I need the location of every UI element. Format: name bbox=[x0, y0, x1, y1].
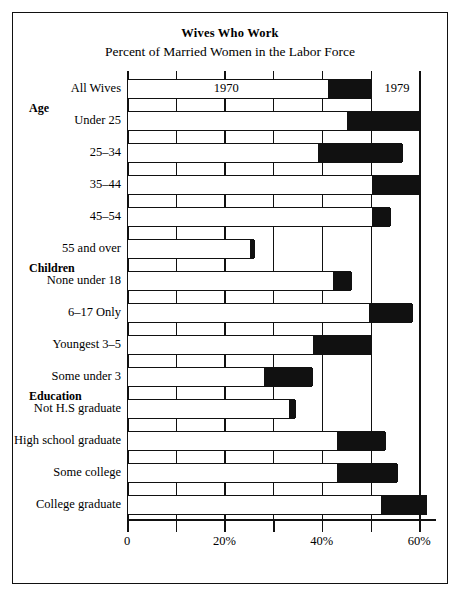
group-header-education: Education bbox=[29, 389, 82, 404]
bar-increment-1970-to-1979 bbox=[372, 208, 391, 226]
bar-1970 bbox=[128, 336, 313, 354]
x-tick-40 bbox=[322, 519, 324, 532]
gridline-50 bbox=[371, 71, 372, 519]
bar-increment-1970-to-1979 bbox=[337, 432, 386, 450]
bar-row[interactable] bbox=[127, 207, 435, 227]
bar-1979[interactable] bbox=[127, 271, 351, 291]
x-tick-30 bbox=[273, 519, 275, 532]
category-label: Youngest 3–5 bbox=[52, 337, 121, 352]
x-tick-20 bbox=[224, 519, 226, 532]
bar-1970 bbox=[128, 496, 381, 514]
category-label: College graduate bbox=[36, 497, 121, 512]
bar-increment-1970-to-1979 bbox=[369, 304, 413, 322]
category-label: All Wives bbox=[71, 81, 121, 96]
x-tick-50 bbox=[371, 519, 373, 532]
gridline-10 bbox=[176, 71, 177, 519]
x-tick-60 bbox=[419, 519, 421, 532]
category-label: 6–17 Only bbox=[68, 305, 121, 320]
gridline-20 bbox=[224, 71, 226, 519]
series-label-1970: 1970 bbox=[214, 81, 239, 96]
bar-increment-1970-to-1979 bbox=[289, 400, 296, 418]
bar-row[interactable] bbox=[127, 271, 435, 291]
category-label: Some college bbox=[53, 465, 121, 480]
bar-1970 bbox=[128, 272, 333, 290]
bar-1970 bbox=[128, 432, 337, 450]
bar-row[interactable] bbox=[127, 367, 435, 387]
bar-1979[interactable] bbox=[127, 335, 371, 355]
bar-row[interactable] bbox=[127, 463, 435, 483]
x-axis-line bbox=[127, 519, 436, 521]
bar-1970 bbox=[128, 304, 369, 322]
bar-1979[interactable] bbox=[127, 399, 295, 419]
bar-row[interactable] bbox=[127, 495, 435, 515]
bar-increment-1970-to-1979 bbox=[333, 272, 352, 290]
bar-row[interactable] bbox=[127, 143, 435, 163]
bar-1979[interactable] bbox=[127, 79, 371, 99]
bar-1979[interactable] bbox=[127, 463, 397, 483]
bar-row[interactable] bbox=[127, 239, 435, 259]
x-tick-label-0: 0 bbox=[124, 534, 130, 549]
bar-1979[interactable] bbox=[127, 175, 419, 195]
gridline-0 bbox=[127, 71, 129, 519]
category-label: 45–54 bbox=[90, 209, 121, 224]
bar-1970 bbox=[128, 400, 289, 418]
bar-increment-1970-to-1979 bbox=[337, 464, 398, 482]
bar-1970 bbox=[128, 176, 372, 194]
bar-increment-1970-to-1979 bbox=[313, 336, 371, 354]
x-tick-0 bbox=[127, 519, 129, 532]
category-label: High school graduate bbox=[14, 433, 121, 448]
bar-row[interactable] bbox=[127, 111, 435, 131]
bar-row[interactable] bbox=[127, 431, 435, 451]
bar-1979[interactable] bbox=[127, 143, 402, 163]
bar-row[interactable] bbox=[127, 335, 435, 355]
category-label: 35–44 bbox=[90, 177, 121, 192]
bar-1979[interactable] bbox=[127, 207, 390, 227]
category-label: 55 and over bbox=[62, 241, 121, 256]
group-header-children: Children bbox=[29, 261, 75, 276]
gridline-40 bbox=[322, 71, 324, 519]
x-tick-label-20: 20% bbox=[213, 534, 236, 549]
bar-1970 bbox=[128, 240, 250, 258]
chart-frame: Wives Who Work Percent of Married Women … bbox=[12, 12, 448, 584]
category-label: Under 25 bbox=[74, 113, 121, 128]
bar-increment-1970-to-1979 bbox=[347, 112, 420, 130]
x-tick-10 bbox=[176, 519, 178, 532]
bar-increment-1970-to-1979 bbox=[328, 80, 372, 98]
bar-1970 bbox=[128, 144, 318, 162]
series-label-1979: 1979 bbox=[385, 81, 410, 96]
bar-1979[interactable] bbox=[127, 495, 427, 515]
gridline-30 bbox=[273, 71, 274, 519]
gridline-60 bbox=[419, 71, 421, 519]
bar-row[interactable] bbox=[127, 399, 435, 419]
bar-1979[interactable] bbox=[127, 239, 254, 259]
bar-increment-1970-to-1979 bbox=[250, 240, 255, 258]
x-tick-label-40: 40% bbox=[310, 534, 333, 549]
bar-increment-1970-to-1979 bbox=[381, 496, 427, 514]
category-label: Some under 3 bbox=[52, 369, 121, 384]
bar-1970 bbox=[128, 368, 264, 386]
bar-1970 bbox=[128, 112, 347, 130]
bar-1979[interactable] bbox=[127, 111, 419, 131]
bar-1970 bbox=[128, 208, 372, 226]
group-header-age: Age bbox=[29, 101, 49, 116]
category-label: 25–34 bbox=[90, 145, 121, 160]
x-tick-label-60: 60% bbox=[408, 534, 431, 549]
bar-row[interactable] bbox=[127, 303, 435, 323]
plot-area bbox=[127, 71, 435, 519]
bar-increment-1970-to-1979 bbox=[318, 144, 403, 162]
bar-increment-1970-to-1979 bbox=[372, 176, 421, 194]
bar-1979[interactable] bbox=[127, 431, 385, 451]
bar-1979[interactable] bbox=[127, 367, 312, 387]
bar-increment-1970-to-1979 bbox=[264, 368, 313, 386]
bar-row[interactable] bbox=[127, 175, 435, 195]
bar-1979[interactable] bbox=[127, 303, 412, 323]
bar-1970 bbox=[128, 464, 337, 482]
